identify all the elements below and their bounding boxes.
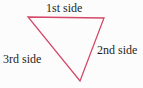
triangle-diagram: 1st side 2nd side 3rd side: [0, 0, 143, 88]
third-side-label: 3rd side: [3, 53, 41, 65]
second-side-label: 2nd side: [97, 44, 137, 56]
triangle-shape: [28, 17, 104, 81]
first-side-label: 1st side: [46, 2, 82, 14]
